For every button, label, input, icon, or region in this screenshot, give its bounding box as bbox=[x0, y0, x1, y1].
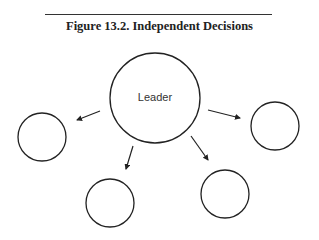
arrow-bottom-right bbox=[191, 136, 208, 160]
leader-node: Leader bbox=[110, 53, 200, 143]
node-right bbox=[251, 102, 299, 150]
arrow-right bbox=[208, 110, 240, 118]
arrow-left bbox=[77, 111, 100, 120]
node-bottom-left bbox=[86, 179, 134, 227]
leader-label: Leader bbox=[138, 91, 173, 103]
node-left bbox=[18, 113, 66, 161]
arrow-bottom-left bbox=[126, 146, 133, 169]
diagram: Leader bbox=[0, 0, 319, 240]
node-bottom-right bbox=[201, 170, 249, 218]
